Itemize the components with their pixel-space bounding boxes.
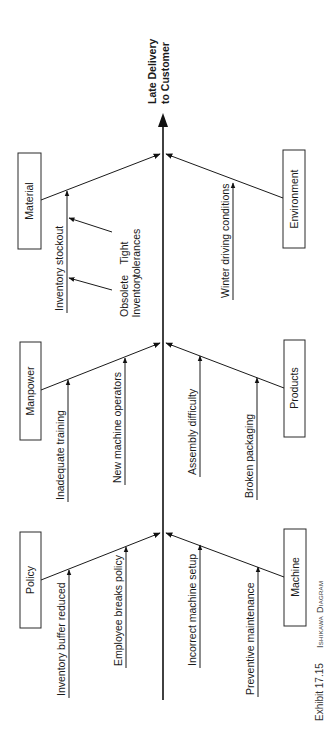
category-label-policy: Policy — [24, 565, 36, 594]
subcause-tight-line2: tolerances — [130, 229, 142, 277]
cause-inventory-buffer-reduced: Inventory buffer reduced — [55, 582, 67, 696]
category-label-material: Material — [23, 182, 35, 219]
caption-exhibit-number: Exhibit 17.15 — [314, 663, 325, 721]
effect-line-1: Late Delivery — [146, 38, 158, 104]
bone-machine — [166, 533, 284, 577]
cause-inadequate-training: Inadequate training — [54, 410, 66, 500]
category-label-machine: Machine — [289, 557, 301, 597]
category-label-manpower: Manpower — [24, 366, 36, 416]
bone-manpower — [41, 343, 160, 390]
subcause-tight-line1: Tight — [118, 241, 130, 264]
ishikawa-diagram: Late Delivery to Customer Material Inven… — [0, 0, 331, 738]
category-environment: Environment Winter driving conditions — [166, 150, 305, 300]
subcause-line-obsolete-inventory — [69, 278, 112, 290]
category-label-environment: Environment — [288, 169, 300, 228]
bone-policy — [41, 533, 160, 580]
cause-preventive-maintenance: Preventive maintenance — [244, 582, 256, 695]
spine — [158, 113, 168, 700]
category-policy: Policy Inventory buffer reduced Employee… — [20, 532, 160, 698]
category-machine: Machine Incorrect machine setup Preventi… — [166, 529, 306, 697]
category-label-products: Products — [288, 367, 300, 408]
cause-employee-breaks-policy: Employee breaks policy — [112, 554, 124, 666]
bone-material — [41, 154, 160, 200]
category-material: Material Inventory stockout Tight tolera… — [18, 153, 160, 318]
figure-caption: Exhibit 17.15 Ishikawa Diagram — [314, 581, 325, 721]
cause-inventory-stockout: Inventory stockout — [53, 226, 65, 311]
spine-arrowhead-icon — [158, 113, 168, 127]
cause-assembly-difficulty: Assembly difficulty — [186, 388, 198, 475]
bone-products — [166, 343, 284, 388]
category-products: Products Assembly difficulty Broken pack… — [166, 340, 305, 500]
cause-incorrect-machine-setup: Incorrect machine setup — [186, 554, 198, 666]
caption-title: Ishikawa Diagram — [315, 581, 325, 648]
cause-broken-packaging: Broken packaging — [243, 414, 255, 498]
subcause-line-tight-tolerances — [69, 218, 112, 232]
effect-label: Late Delivery to Customer — [146, 38, 171, 104]
cause-new-machine-operators: New machine operators — [111, 372, 123, 483]
cause-winter-driving-conditions: Winter driving conditions — [219, 184, 231, 298]
effect-line-2: to Customer — [159, 42, 171, 104]
subcause-obsolete-line1: Obsolete — [118, 275, 130, 317]
subcause-obsolete-line2: Inventory — [130, 274, 142, 318]
category-manpower: Manpower Inadequate training New machine… — [20, 342, 160, 502]
